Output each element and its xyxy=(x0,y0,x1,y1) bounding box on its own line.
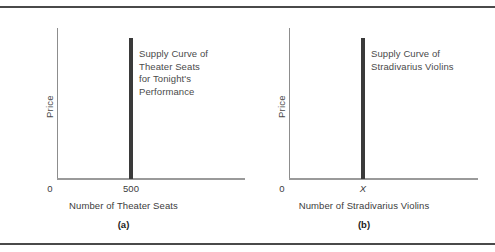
price-axis-line xyxy=(57,28,58,179)
panel-theater-seats: Price Supply Curve of Theater Seats for … xyxy=(0,0,247,252)
supply-curve-annotation: Supply Curve of Stradivarius Violins xyxy=(371,48,454,73)
quantity-tick-label: 500 xyxy=(111,183,151,194)
x-axis-title: Number of Theater Seats xyxy=(0,200,247,211)
y-axis-title: Price xyxy=(44,95,55,118)
annotation-line: Theater Seats xyxy=(139,61,208,74)
origin-tick-label: 0 xyxy=(43,183,57,194)
annotation-line: Performance xyxy=(139,86,208,99)
annotation-line: Stradivarius Violins xyxy=(371,61,454,74)
panel-caption: (a) xyxy=(0,219,247,230)
supply-curve-figure: Price Supply Curve of Theater Seats for … xyxy=(0,0,495,252)
panel-stradivarius-violins: Price Supply Curve of Stradivarius Violi… xyxy=(248,0,495,252)
annotation-line: Supply Curve of xyxy=(139,48,208,61)
price-axis-line xyxy=(289,28,290,179)
supply-curve-line xyxy=(361,38,365,179)
y-axis-title: Price xyxy=(276,95,287,118)
supply-curve-annotation: Supply Curve of Theater Seats for Tonigh… xyxy=(139,48,208,98)
x-axis-title: Number of Stradivarius Violins xyxy=(248,200,480,211)
quantity-axis-line xyxy=(57,178,245,180)
annotation-line: for Tonight's xyxy=(139,73,208,86)
quantity-axis-line xyxy=(289,178,478,180)
panel-caption: (b) xyxy=(248,219,480,230)
quantity-tick-label: X xyxy=(343,183,383,194)
figure-bottom-rule xyxy=(0,243,495,245)
supply-curve-line xyxy=(129,38,133,179)
annotation-line: Supply Curve of xyxy=(371,48,454,61)
origin-tick-label: 0 xyxy=(275,183,289,194)
